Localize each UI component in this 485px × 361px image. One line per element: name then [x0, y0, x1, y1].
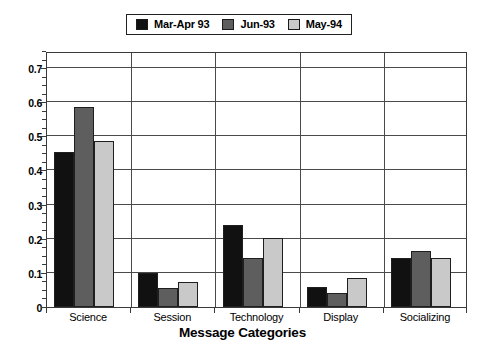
- x-axis-title: Message Categories: [0, 325, 485, 340]
- y-axis-tick-label: 0.6: [8, 98, 42, 108]
- y-axis-tick-label: 0.3: [8, 201, 42, 211]
- y-axis-tick-label: 0.2: [8, 235, 42, 245]
- bar: [158, 288, 178, 307]
- bar: [263, 238, 283, 307]
- x-axis-category-label: Socializing: [383, 311, 467, 323]
- x-axis-category-label: Session: [130, 311, 214, 323]
- y-axis: 00.10.20.30.40.50.60.7: [0, 52, 42, 308]
- legend-swatch-series-3: [288, 19, 300, 30]
- bar: [411, 251, 431, 307]
- legend-entry: May-94: [288, 19, 342, 30]
- x-axis-category-label: Technology: [214, 311, 298, 323]
- y-axis-tick-label: 0.1: [8, 269, 42, 279]
- bar-chart: Mar-Apr 93 Jun-93 May-94 00.10.20.30.40.…: [0, 0, 485, 361]
- legend-entry: Jun-93: [222, 19, 274, 30]
- legend-label-series-1: Mar-Apr 93: [154, 19, 209, 30]
- legend-label-series-2: Jun-93: [240, 19, 274, 30]
- y-axis-tick-label: 0: [8, 303, 42, 313]
- legend-swatch-series-2: [222, 19, 234, 30]
- bar: [391, 258, 411, 307]
- x-axis-category-label: Display: [299, 311, 383, 323]
- bar: [327, 293, 347, 307]
- legend-label-series-3: May-94: [306, 19, 342, 30]
- bar: [54, 152, 74, 307]
- bar: [138, 273, 158, 307]
- bar: [431, 258, 451, 307]
- bar: [74, 107, 94, 307]
- legend-swatch-series-1: [136, 19, 148, 30]
- y-axis-tick-label: 0.4: [8, 166, 42, 176]
- bar: [307, 287, 327, 307]
- bar: [178, 282, 198, 307]
- bar-series-container: [47, 53, 466, 307]
- y-axis-tick-label: 0.7: [8, 64, 42, 74]
- bar: [243, 258, 263, 307]
- y-axis-tick-label: 0.5: [8, 132, 42, 142]
- plot-area: [46, 52, 467, 308]
- bar: [223, 225, 243, 307]
- chart-legend: Mar-Apr 93 Jun-93 May-94: [126, 14, 352, 35]
- legend-entry: Mar-Apr 93: [136, 19, 209, 30]
- bar: [94, 141, 114, 307]
- x-axis-category-label: Science: [46, 311, 130, 323]
- bar: [347, 278, 367, 307]
